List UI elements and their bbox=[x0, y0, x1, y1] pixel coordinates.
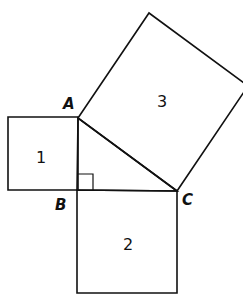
right-triangle-abc bbox=[77, 118, 177, 191]
right-angle-marker bbox=[77, 174, 93, 190]
vertex-label-a: A bbox=[62, 95, 75, 113]
pythagorean-diagram: A B C 1 2 3 bbox=[0, 0, 243, 296]
vertex-label-c: C bbox=[182, 191, 193, 209]
square-label-1: 1 bbox=[36, 148, 46, 167]
vertex-label-b: B bbox=[55, 196, 66, 214]
square-label-3: 3 bbox=[157, 92, 167, 111]
square-label-2: 2 bbox=[123, 235, 133, 254]
